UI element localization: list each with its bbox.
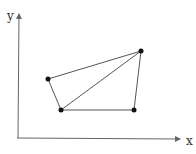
vertex-a: [46, 77, 51, 82]
edge-a-b: [48, 79, 61, 110]
y-axis-label: y: [6, 9, 14, 23]
vertex-c: [132, 108, 137, 113]
edge-d-a: [48, 51, 141, 79]
vertex-d: [139, 49, 144, 54]
polygon-vertices: [46, 49, 144, 113]
vertex-b: [59, 108, 64, 113]
diagonal-b-d: [61, 51, 141, 110]
polygon-edges: [48, 51, 141, 110]
polygon-diagram: y x: [0, 0, 196, 154]
y-axis: [18, 14, 19, 138]
edge-c-d: [134, 51, 141, 110]
x-axis-label: x: [186, 134, 193, 148]
x-axis: [17, 138, 180, 139]
